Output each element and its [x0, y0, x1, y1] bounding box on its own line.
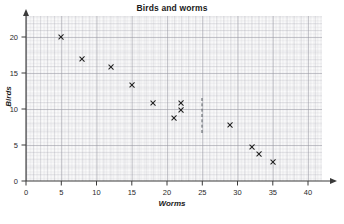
y-tick-label-0: 0	[6, 177, 18, 186]
y-tick-label-5: 5	[6, 141, 18, 150]
y-tick-label-20: 20	[2, 33, 18, 42]
x-tick-label-15: 15	[128, 188, 136, 197]
x-tick-label-25: 25	[198, 188, 206, 197]
chart-axes	[0, 0, 344, 224]
x-tick-label-10: 10	[92, 188, 100, 197]
y-axis-arrowhead	[23, 9, 29, 16]
x-axis-arrowhead	[330, 178, 337, 184]
x-axis-label: Worms	[0, 199, 344, 208]
x-tick-label-35: 35	[269, 188, 277, 197]
dashed-annotation-line	[202, 98, 203, 133]
x-tick-label-0: 0	[24, 188, 28, 197]
x-axis-ticks	[26, 181, 308, 186]
y-axis-label: Birds	[4, 75, 13, 119]
x-tick-label-20: 20	[163, 188, 171, 197]
x-tick-label-30: 30	[233, 188, 241, 197]
y-axis-ticks	[22, 37, 27, 181]
x-tick-label-5: 5	[59, 188, 63, 197]
x-tick-label-40: 40	[304, 188, 312, 197]
scatter-chart: Birds and worms 0 5 1	[0, 0, 344, 224]
